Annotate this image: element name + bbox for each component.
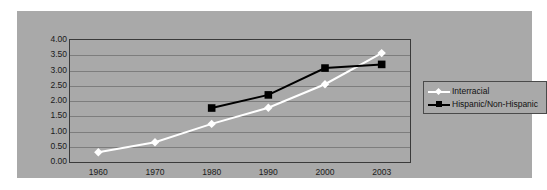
x-axis-tick-label: 2003 <box>372 167 391 177</box>
line-chart: 4.003.503.002.502.001.501.000.500.00 196… <box>0 0 547 190</box>
plot-area <box>69 39 411 163</box>
y-axis-tick-label: 0.00 <box>34 157 67 166</box>
chart-legend: Interracial Hispanic/Non-Hispanic <box>423 81 547 114</box>
legend-item-interracial[interactable]: Interracial <box>428 85 543 98</box>
data-point-square <box>378 61 386 69</box>
y-axis-tick-label: 4.00 <box>34 35 67 44</box>
data-point-square <box>265 91 273 99</box>
data-point-diamond <box>94 148 102 156</box>
y-axis-tick-label: 0.50 <box>34 142 67 151</box>
y-axis-tick-label: 2.00 <box>34 96 67 105</box>
data-point-diamond <box>377 49 385 57</box>
y-axis-tick-label: 1.50 <box>34 111 67 120</box>
legend-label-hispanic-non-hispanic: Hispanic/Non-Hispanic <box>452 99 538 110</box>
data-point-diamond <box>321 80 329 88</box>
legend-item-hispanic-non-hispanic[interactable]: Hispanic/Non-Hispanic <box>428 98 543 111</box>
y-axis: 4.003.503.002.502.001.501.000.500.00 <box>34 33 67 167</box>
y-axis-tick-label: 2.50 <box>34 81 67 90</box>
y-axis-tick-label: 1.00 <box>34 127 67 136</box>
data-point-square <box>321 64 329 72</box>
y-axis-tick-label: 3.50 <box>34 50 67 59</box>
x-axis-tick-label: 1970 <box>146 167 165 177</box>
diamond-marker-icon <box>428 86 450 97</box>
x-axis-tick-label: 1990 <box>259 167 278 177</box>
data-point-diamond <box>264 104 272 112</box>
chart-canvas: 4.003.503.002.502.001.501.000.500.00 196… <box>17 11 532 178</box>
series-line <box>212 64 382 108</box>
legend-label-interracial: Interracial <box>452 86 489 97</box>
data-point-diamond <box>151 138 159 146</box>
x-axis-tick-label: 1960 <box>89 167 108 177</box>
data-point-square <box>208 104 216 112</box>
y-axis-tick-label: 3.00 <box>34 66 67 75</box>
square-marker-icon <box>428 99 450 110</box>
x-axis-tick-label: 2000 <box>316 167 335 177</box>
x-axis: 196019701980199020002003 <box>69 167 410 181</box>
x-axis-tick-label: 1980 <box>202 167 221 177</box>
plot-svg <box>70 40 410 162</box>
data-point-diamond <box>207 120 215 128</box>
